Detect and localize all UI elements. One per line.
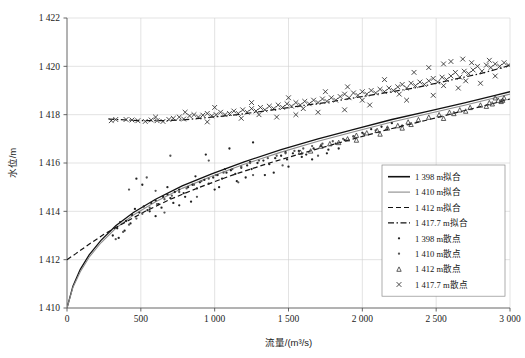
scatter-point [184,196,186,198]
scatter-point [370,128,372,130]
scatter-point [276,155,278,157]
y-tick-label: 1 414 [39,207,61,217]
scatter-point [171,194,173,196]
scatter-point [154,199,156,201]
scatter-point [169,197,171,199]
scatter-point [208,159,210,161]
scatter-point [262,159,264,161]
scatter-point [301,156,303,158]
scatter-point [240,165,242,167]
scatter-point [252,141,254,143]
chart-container: 1 4101 4121 4141 4161 4181 4201 42205001… [0,0,525,358]
scatter-point [166,186,168,188]
scatter-point [125,220,127,222]
scatter-point [149,210,151,212]
y-tick-label: 1 412 [39,255,61,265]
legend-label: 1 417.7 m散点 [415,279,468,290]
scatter-point [174,191,176,193]
scatter-point [281,164,283,166]
scatter-point [212,176,214,178]
scatter-point [237,181,239,183]
scatter-point [141,184,143,186]
scatter-point [327,149,329,151]
scatter-point [146,209,148,211]
scatter-point [135,178,137,180]
y-tick-label: 1 422 [39,13,61,23]
legend-label: 1 410 m拟合 [415,186,461,197]
scatter-point [305,153,307,155]
scatter-point [194,175,196,177]
scatter-point [166,193,168,195]
scatter-point [398,253,400,255]
scatter-point [178,188,180,190]
scatter-point [128,223,130,225]
scatter-point [292,152,294,154]
legend-label: 1 410 m散点 [415,248,461,259]
x-tick-label: 2 500 [425,314,447,324]
scatter-point [317,155,319,157]
scatter-point [135,217,137,219]
scatter-point [311,158,313,160]
legend: 1 398 m拟合1 410 m拟合1 412 m拟合1 417.7 m拟合1 … [382,165,505,296]
water-level-discharge-chart: 1 4101 4121 4141 4161 4181 4201 42205001… [0,0,525,358]
scatter-point [203,179,205,181]
scatter-point [225,172,227,174]
y-tick-label: 1 410 [39,303,61,313]
scatter-point [245,176,247,178]
scatter-point [205,153,207,155]
scatter-point [398,237,400,239]
legend-label: 1 417.7 m拟合 [415,217,468,228]
scatter-point [215,174,217,176]
scatter-point [302,147,304,149]
legend-label: 1 398 m散点 [415,233,461,244]
scatter-point [342,138,344,140]
scatter-point [231,168,233,170]
scatter-point [274,157,276,159]
scatter-point [256,162,258,164]
scatter-point [122,231,124,233]
scatter-point [286,158,288,160]
scatter-point [218,186,220,188]
x-tick-label: 1 500 [278,314,300,324]
scatter-point [163,211,165,213]
scatter-point [154,215,156,217]
scatter-point [287,165,289,167]
scatter-point [118,237,120,239]
scatter-point [143,205,145,207]
scatter-point [284,152,286,154]
scatter-point [268,163,270,165]
scatter-point [221,178,223,180]
scatter-point [338,147,340,149]
scatter-point [128,188,130,190]
y-tick-label: 1 418 [39,110,61,120]
legend-label: 1 412 m散点 [415,263,461,274]
scatter-point [169,155,171,157]
x-tick-label: 3 000 [499,314,521,324]
scatter-point [116,227,118,229]
scatter-point [208,182,210,184]
scatter-point [380,126,382,128]
scatter-point [163,198,165,200]
y-tick-label: 1 420 [39,62,61,72]
legend-box [382,165,505,296]
scatter-point [193,184,195,186]
scatter-point [234,173,236,175]
scatter-point [264,174,266,176]
legend-label: 1 398 m拟合 [415,171,461,182]
scatter-point [190,201,192,203]
y-tick-label: 1 416 [39,158,61,168]
scatter-point [273,172,275,174]
scatter-point [178,204,180,206]
scatter-point [208,178,210,180]
scatter-point [119,221,121,223]
scatter-point [311,145,313,147]
scatter-point [115,238,117,240]
scatter-point [154,190,156,192]
scatter-point [162,196,164,198]
scatter-point [293,150,295,152]
scatter-point [249,162,251,164]
scatter-point [280,155,282,157]
scatter-point [222,172,224,174]
x-axis-title: 流量/(m³/s) [265,337,312,348]
scatter-point [138,211,140,213]
